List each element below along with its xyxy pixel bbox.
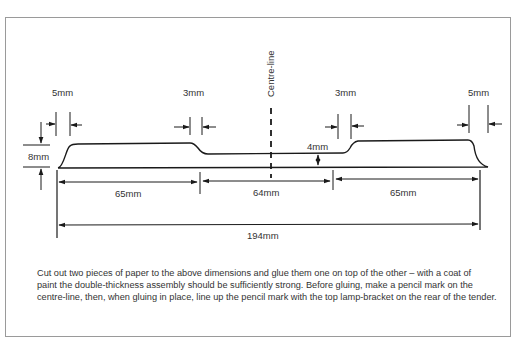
label-right-end-gap: 5mm	[468, 87, 489, 98]
caption-line: paint the double-thickness assembly shou…	[37, 279, 507, 291]
label-overall-length: 194mm	[247, 230, 279, 241]
label-right-step-gap: 3mm	[335, 87, 356, 98]
caption-line: centre-line, then, when gluing in place,…	[37, 291, 507, 303]
label-left-end-gap: 5mm	[52, 87, 73, 98]
label-left-step-gap: 3mm	[183, 87, 204, 98]
template-profile	[58, 140, 488, 168]
label-centre-line: Centre-line	[265, 51, 276, 97]
caption-line: Cut out two pieces of paper to the above…	[37, 267, 507, 279]
label-centre-section: 64mm	[253, 187, 279, 198]
instructions-caption: Cut out two pieces of paper to the above…	[37, 267, 507, 303]
label-step-height: 4mm	[307, 141, 328, 152]
dimension-overall	[59, 224, 478, 225]
label-right-section: 65mm	[390, 187, 416, 198]
label-height: 8mm	[28, 151, 49, 162]
label-left-section: 65mm	[115, 188, 141, 199]
